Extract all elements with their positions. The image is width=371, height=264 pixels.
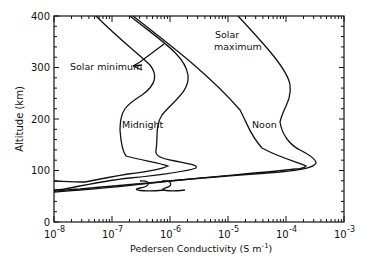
x-axis-title: Pedersen Conductivity (S m-1): [130, 242, 272, 254]
y-tick-300: 300: [31, 62, 50, 73]
curves: [54, 16, 316, 192]
svg-text:-5: -5: [231, 225, 239, 234]
svg-text:-3: -3: [347, 225, 355, 234]
svg-text:-4: -4: [289, 225, 297, 234]
curve-noon-solar-min: [54, 16, 306, 192]
y-tick-0: 0: [44, 217, 50, 228]
label-noon: Noon: [252, 119, 277, 130]
y-tick-200: 200: [31, 114, 50, 125]
svg-text:10: 10: [276, 229, 289, 240]
svg-text:10: 10: [218, 229, 231, 240]
curve-midnight-solar-max: [54, 16, 196, 190]
svg-text:-8: -8: [57, 225, 65, 234]
y-ticks: [54, 16, 344, 222]
x-ticks: [54, 16, 344, 222]
svg-text:10: 10: [44, 229, 57, 240]
x-tick-labels: 10-8 10-7 10-6 10-5 10-4 10-3: [44, 225, 355, 240]
svg-text:10: 10: [102, 229, 115, 240]
curve-noon-solar-max: [54, 16, 316, 191]
low-alt-wiggle-2: [162, 181, 185, 191]
svg-text:-7: -7: [115, 225, 123, 234]
curve-midnight-solar-min: [54, 16, 168, 182]
plot-frame: [54, 16, 344, 222]
label-solar-maximum-1: Solar: [215, 29, 239, 40]
y-tick-100: 100: [31, 165, 50, 176]
svg-text:10: 10: [334, 229, 347, 240]
label-solar-minimum: Solar minimum: [70, 61, 142, 72]
y-axis-title: Altitude (km): [14, 86, 25, 152]
svg-text:10: 10: [160, 229, 173, 240]
svg-text:-6: -6: [173, 225, 181, 234]
label-solar-maximum-2: maximum: [214, 41, 262, 52]
y-tick-400: 400: [31, 11, 50, 22]
label-midnight: Midnight: [122, 119, 164, 130]
chart: Solar minimum Solar maximum Midnight Noo…: [0, 0, 371, 264]
